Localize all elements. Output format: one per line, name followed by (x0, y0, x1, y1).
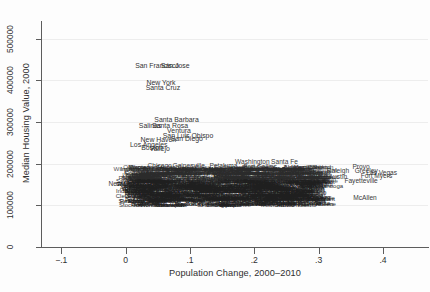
y-axis-line (41, 21, 42, 248)
data-point-label: Salinas (139, 122, 162, 129)
x-tick-label: .4 (363, 255, 403, 265)
y-tick-mark (36, 164, 42, 165)
x-axis-line (41, 247, 429, 248)
x-tick-mark (254, 248, 255, 254)
x-tick-mark (126, 248, 127, 254)
overplotted-label: Fresno (298, 201, 317, 208)
y-tick-label: 200000 (4, 140, 16, 188)
y-tick-mark (36, 39, 42, 40)
data-point-label: McAllen (353, 194, 376, 201)
x-tick-label: .1 (170, 255, 210, 265)
x-tick-label: .2 (234, 255, 274, 265)
overplotted-label: Wenatchee (221, 201, 251, 208)
y-tick-label: 300000 (4, 98, 16, 146)
y-tick-mark (36, 122, 42, 123)
y-tick-mark (36, 205, 42, 206)
x-tick-label: −.1 (41, 255, 81, 265)
y-tick-label: 500000 (4, 15, 16, 63)
data-point-label: Fayetteville (344, 177, 377, 184)
x-tick-mark (61, 248, 62, 254)
y-tick-mark (36, 80, 42, 81)
y-tick-mark (36, 247, 42, 248)
y-tick-label: 100000 (4, 181, 16, 229)
x-axis-title: Population Change, 2000–2010 (42, 268, 428, 278)
scatter-plot-figure: Median Housing Value, 2000 Population Ch… (0, 0, 430, 292)
overplotted-label: Bremerton (156, 201, 184, 208)
x-tick-mark (383, 248, 384, 254)
overplotted-label: Modesto (261, 201, 284, 208)
x-tick-mark (319, 248, 320, 254)
gridline-y (42, 39, 428, 40)
data-point-label: Vallejo (150, 144, 170, 151)
x-tick-label: .3 (299, 255, 339, 265)
gridline-y (42, 122, 428, 123)
gridline-y (42, 80, 428, 81)
overplotted-label: Tucson (133, 201, 152, 208)
y-tick-label: 0 (4, 223, 16, 271)
x-tick-mark (190, 248, 191, 254)
x-tick-label: 0 (106, 255, 146, 265)
data-point-label: Santa Cruz (146, 84, 180, 91)
y-tick-label: 400000 (4, 56, 16, 104)
data-point-label: San Jose (161, 61, 190, 68)
